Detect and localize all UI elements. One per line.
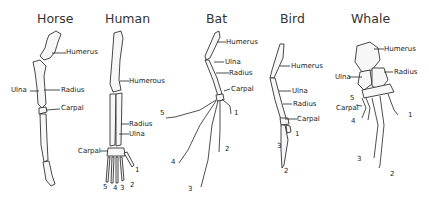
bird-radius-label: Radius xyxy=(293,100,316,108)
bone-illustrations xyxy=(0,0,429,202)
whale-ulna-label: Ulna xyxy=(335,73,351,81)
whale-digit-1: 1 xyxy=(408,111,412,119)
human-digit-4: 4 xyxy=(113,184,117,192)
bat-radius-label: Radius xyxy=(229,69,252,77)
human-digit-1: 1 xyxy=(135,166,139,174)
whale-radius-label: Radius xyxy=(394,68,417,76)
whale-digit-2: 2 xyxy=(390,170,394,178)
bat-humerus-label: Humerus xyxy=(226,38,258,46)
bat-digit-5: 5 xyxy=(160,109,164,117)
bat-digit-2: 2 xyxy=(225,145,229,153)
bat-carpal-label: Carpal xyxy=(231,85,254,93)
human-digit-3: 3 xyxy=(120,184,124,192)
bat-ulna-label: Ulna xyxy=(225,58,241,66)
bat-digit-4: 4 xyxy=(171,158,175,166)
horse-carpal-label: Carpal xyxy=(61,104,84,112)
whale-digit-5: 5 xyxy=(350,94,354,102)
horse-radius-label: Radius xyxy=(61,86,84,94)
whale-digit-3: 3 xyxy=(357,155,361,163)
bat-digit-3: 3 xyxy=(188,185,192,193)
bird-humerus-label: Humerus xyxy=(291,62,323,70)
human-radius-label: Radius xyxy=(129,120,152,128)
horse-humerus-label: Humerus xyxy=(66,48,98,56)
bat-digit-1: 1 xyxy=(234,109,238,117)
bird-digit-3: 3 xyxy=(277,142,281,150)
bird-digit-1: 1 xyxy=(295,130,299,138)
whale-humerus-label: Humerus xyxy=(384,45,416,53)
whale-digit-4: 4 xyxy=(351,117,355,125)
bird-digit-2: 2 xyxy=(284,167,288,175)
human-digit-2: 2 xyxy=(130,181,134,189)
whale-carpal-label: Carpal xyxy=(336,104,359,112)
bat-forelimb xyxy=(166,31,231,187)
bird-ulna-label: Ulna xyxy=(292,87,308,95)
human-carpal-label: Carpal xyxy=(78,147,101,155)
horse-ulna-label: Ulna xyxy=(11,86,27,94)
bird-carpal-label: Carpal xyxy=(297,115,320,123)
human-ulna-label: Ulna xyxy=(129,130,145,138)
human-humerus-label: Humerous xyxy=(129,77,165,85)
human-digit-5: 5 xyxy=(103,183,107,191)
human-forelimb xyxy=(100,31,134,183)
